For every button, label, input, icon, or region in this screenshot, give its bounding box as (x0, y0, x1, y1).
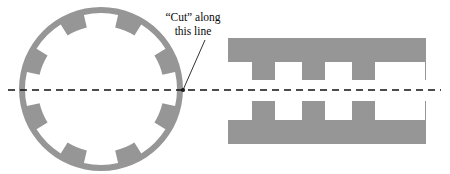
figure-container: “Cut” along this line (0, 0, 450, 174)
annotation-line-1: “Cut” along (165, 11, 220, 24)
annotation-line-2: this line (175, 25, 212, 37)
leader-anchor-dot (181, 88, 185, 92)
diagram-canvas: “Cut” along this line (0, 0, 450, 174)
